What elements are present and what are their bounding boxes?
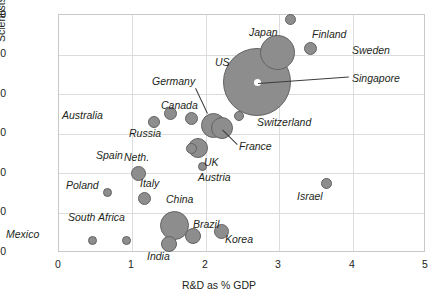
bubble-neth[interactable]: [186, 143, 197, 154]
point-label-finland: Finland: [312, 29, 346, 40]
point-label-poland: Poland: [66, 180, 99, 191]
y-tick-2000: 2,000: [0, 167, 6, 177]
point-label-germany: Germany: [152, 76, 195, 87]
point-label-israel: Israel: [297, 191, 323, 202]
bubble-mexico[interactable]: [88, 236, 97, 245]
point-label-france: France: [239, 141, 272, 152]
point-label-spain: Spain: [96, 150, 123, 161]
point-label-canada: Canada: [161, 100, 198, 111]
point-label-uk: UK: [204, 157, 219, 168]
x-tick-1: 1: [111, 259, 151, 269]
y-tick-6000: 6,000: [0, 9, 6, 19]
point-label-mexico: Mexico: [6, 229, 39, 240]
y-tick-4000: 4,000: [0, 88, 6, 98]
gridline-y-2000: [59, 173, 424, 174]
x-tick-0: 0: [38, 259, 78, 269]
bubble-finland[interactable]: [285, 14, 296, 25]
point-label-china: China: [166, 194, 193, 205]
point-label-neth: Neth.: [124, 152, 149, 163]
y-tick-1000: 1,000: [0, 206, 6, 216]
y-tick-0: 0: [0, 246, 6, 256]
y-axis-title: Scientists & Engineers/Million People: [0, 0, 7, 42]
bubble-italy[interactable]: [138, 192, 151, 205]
point-label-korea: Korea: [225, 234, 253, 245]
x-tick-5: 5: [405, 259, 438, 269]
x-tick-3: 3: [258, 259, 298, 269]
x-tick-4: 4: [332, 259, 372, 269]
point-label-japan: Japan: [249, 27, 278, 38]
point-label-austria: Austria: [198, 172, 231, 183]
point-label-singapore: Singapore: [352, 73, 400, 84]
point-label-us: US: [215, 57, 230, 68]
gridline-y-3000: [59, 134, 424, 135]
x-tick-2: 2: [185, 259, 225, 269]
point-label-australia: Australia: [62, 110, 103, 121]
bubble-sweden[interactable]: [304, 42, 317, 55]
point-label-south-africa: South Africa: [68, 212, 125, 223]
bubble-switzerland[interactable]: [234, 111, 244, 121]
point-label-sweden: Sweden: [352, 45, 390, 56]
bubble-poland[interactable]: [103, 188, 112, 197]
y-tick-5000: 5,000: [0, 48, 6, 58]
y-tick-3000: 3,000: [0, 127, 6, 137]
point-label-switzerland: Switzerland: [257, 117, 311, 128]
bubble-canada[interactable]: [185, 112, 198, 125]
point-label-brazil: Brazil: [193, 219, 219, 230]
point-label-india: India: [147, 251, 170, 262]
bubble-chart: Scientists & Engineers/Million People 6,…: [0, 0, 438, 299]
x-axis-title: R&D as % GDP: [0, 279, 438, 291]
bubble-japan[interactable]: [260, 35, 295, 70]
bubble-israel[interactable]: [321, 178, 332, 189]
bubble-south-africa[interactable]: [122, 236, 131, 245]
point-label-italy: Italy: [140, 178, 159, 189]
point-label-russia: Russia: [129, 128, 161, 139]
